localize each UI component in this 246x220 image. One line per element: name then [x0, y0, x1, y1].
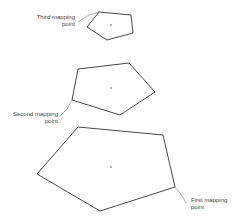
diagram-canvas [0, 0, 246, 220]
second-leader-line [60, 100, 72, 116]
label-line: point [30, 21, 75, 28]
second-center-dot [110, 87, 111, 88]
label-line: Second mapping [4, 111, 58, 118]
label-line: Third mapping [30, 14, 75, 21]
third-pentagon [87, 12, 133, 40]
second-pentagon [72, 63, 155, 115]
label-line: point [4, 118, 58, 125]
first-mapping-label: First mapping point [191, 197, 227, 211]
label-line: point [191, 204, 227, 211]
first-center-dot [110, 166, 111, 167]
first-leader-line [175, 187, 186, 203]
third-leader-line [78, 12, 99, 22]
label-line: First mapping [191, 197, 227, 204]
third-mapping-label: Third mapping point [30, 14, 75, 28]
third-center-dot [110, 24, 111, 25]
first-pentagon [37, 127, 175, 211]
second-mapping-label: Second mapping point [4, 111, 58, 125]
